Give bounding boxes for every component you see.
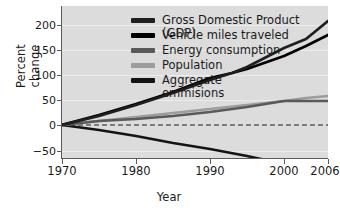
x-tick-label-2000: 2000 [269,165,298,177]
x-axis-line [61,158,328,159]
legend-item-energy-consumption: Energy consumption [131,44,328,58]
legend-label-energy-consumption: Energy consumption [162,44,280,57]
legend-item-population: Population [131,59,328,73]
legend-swatch-vehicle-miles-traveled [131,33,155,38]
y-tick-label-100: 100 [26,70,56,81]
y-tick-label-150: 150 [26,45,56,56]
y-tick-label-minus50: −50 [22,146,56,157]
legend-swatch-aggregate-emmisions [131,78,155,83]
legend-label-vehicle-miles-traveled: Vehicle miles traveled [162,29,289,42]
y-tick-label-0: 0 [26,120,56,131]
x-tick-label-1970: 1970 [47,165,76,177]
x-tick-label-1980: 1980 [121,165,150,177]
legend-swatch-population [131,63,155,68]
legend-item-aggregate-emmisions: Aggregate emmisions [131,74,328,100]
chart-legend: Gross Domestic Product (GDP) Vehicle mil… [131,14,328,100]
legend-swatch-energy-consumption [131,48,155,53]
x-axis-title: Year [0,190,338,204]
legend-label-population: Population [162,59,222,72]
series-line-aggregate-emmisions [62,125,328,158]
y-tick-label-50: 50 [26,95,56,106]
legend-label-aggregate-emmisions: Aggregate emmisions [162,74,224,100]
legend-item-vehicle-miles-traveled: Vehicle miles traveled [131,29,328,43]
plot-area: Gross Domestic Product (GDP) Vehicle mil… [62,6,328,158]
x-tick-label-2006: 2006 [310,165,339,177]
legend-item-gdp: Gross Domestic Product (GDP) [131,14,328,28]
x-tick-label-1990: 1990 [195,165,224,177]
y-tick-label-200: 200 [26,20,56,31]
legend-swatch-gdp [131,18,155,23]
